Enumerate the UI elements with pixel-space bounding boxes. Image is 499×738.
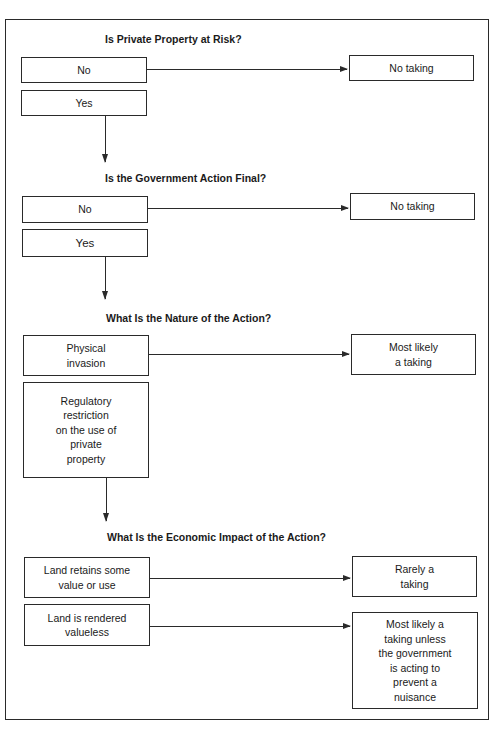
arrow-down-2 [105, 257, 106, 299]
arrow-right-5 [150, 626, 350, 627]
arrow-right-2 [148, 208, 348, 209]
outcome-rarely-taking: Rarely a taking [352, 556, 477, 597]
question-economic-impact: What Is the Economic Impact of the Actio… [107, 531, 326, 543]
outcome-no-taking-2: No taking [350, 193, 475, 220]
arrow-right-1 [147, 69, 347, 70]
arrow-right-3 [149, 354, 349, 355]
option-yes-1: Yes [21, 90, 147, 116]
option-regulatory-restriction: Regulatory restriction on the use of pri… [23, 382, 149, 478]
option-physical-invasion: Physical invasion [23, 335, 149, 376]
outcome-most-likely-taking-unless-nuisance: Most likely a taking unless the governme… [352, 612, 478, 709]
option-land-retains-value: Land retains some value or use [24, 557, 150, 598]
question-private-property-at-risk: Is Private Property at Risk? [105, 33, 242, 45]
option-no-2: No [22, 196, 148, 223]
arrow-right-4 [150, 578, 350, 579]
outcome-most-likely-taking: Most likely a taking [351, 334, 476, 375]
arrow-down-1 [105, 116, 106, 162]
outcome-no-taking-1: No taking [349, 55, 474, 81]
arrow-down-3 [106, 478, 107, 521]
option-land-valueless: Land is rendered valueless [24, 604, 150, 646]
option-yes-2: Yes [22, 229, 148, 257]
option-no-1: No [21, 57, 147, 83]
question-government-action-final: Is the Government Action Final? [105, 172, 266, 184]
question-nature-of-action: What Is the Nature of the Action? [106, 312, 271, 324]
